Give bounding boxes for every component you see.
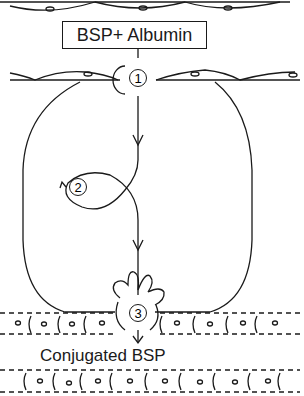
step-1-marker: 1 [129,69,147,87]
step-3-marker: 3 [129,304,147,322]
diagram-drawing [0,0,304,396]
bsp-albumin-label: BSP+ Albumin [62,21,207,49]
bottom-epithelium [0,370,300,392]
lower-epithelium [0,313,300,334]
step-2-marker: 2 [69,178,87,196]
top-endothelium [0,2,290,11]
canaliculus [113,272,164,305]
conjugated-bsp-label: Conjugated BSP [40,346,166,366]
sinusoid-lining [10,66,300,94]
